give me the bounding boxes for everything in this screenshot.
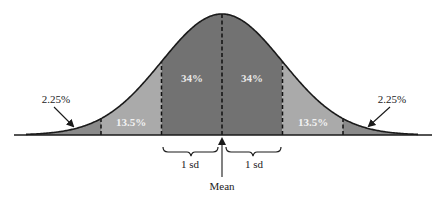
label-left-13-5: 13.5% — [116, 116, 146, 128]
normal-distribution-figure: 34% 34% 13.5% 13.5% 2.25% 2.25% 1 sd 1 s… — [0, 0, 444, 202]
mean-label: Mean — [209, 180, 235, 192]
label-right-tail: 2.25% — [378, 93, 406, 105]
left-sd-brace-icon — [163, 147, 218, 156]
bell-curve-svg: 34% 34% 13.5% 13.5% 2.25% 2.25% 1 sd 1 s… — [0, 0, 444, 202]
label-right-34: 34% — [241, 72, 263, 84]
right-sd-brace-icon — [226, 147, 281, 156]
right-tail-arrow-icon — [369, 107, 390, 126]
left-tail-arrow-icon — [54, 107, 73, 126]
region-far-left-tail — [26, 119, 101, 135]
region-far-right-tail — [343, 119, 418, 135]
left-sd-label: 1 sd — [181, 158, 200, 170]
label-left-tail: 2.25% — [42, 93, 70, 105]
label-right-13-5: 13.5% — [298, 116, 328, 128]
label-left-34: 34% — [181, 72, 203, 84]
right-sd-label: 1 sd — [245, 158, 264, 170]
